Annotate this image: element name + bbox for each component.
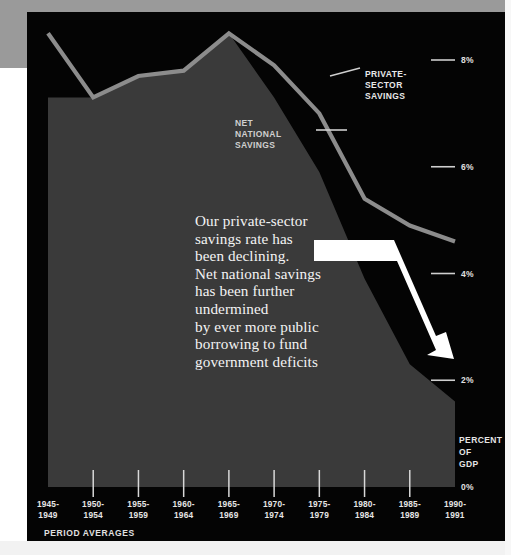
x-tick-label: 1955- 1959: [115, 499, 161, 521]
callout-text: Our private-sector savings rate has been…: [195, 212, 375, 370]
y-axis-ticks: [431, 60, 455, 380]
paper-edge-top: [0, 0, 511, 12]
x-tick-label: 1975- 1979: [296, 499, 342, 521]
x-tick-label: 1970- 1974: [251, 499, 297, 521]
paper-edge-bottom: [0, 541, 511, 555]
paper-edge-right: [505, 0, 511, 555]
x-tick-label: 1965- 1969: [206, 499, 252, 521]
x-tick-label: 1980- 1984: [342, 499, 388, 521]
x-axis-title: PERIOD AVERAGES: [44, 528, 135, 539]
legend-label-net-national: NET NATIONAL SAVINGS: [235, 118, 313, 151]
paper-edge-left: [0, 0, 27, 68]
y-tick-label: 4%: [461, 269, 474, 279]
chart-figure: PRIVATE- SECTOR SAVINGS NET NATIONAL SAV…: [0, 0, 511, 555]
y-tick-label: 0%: [461, 482, 474, 492]
x-tick-label: 1960- 1964: [161, 499, 207, 521]
x-tick-label: 1990- 1991: [432, 499, 478, 521]
x-tick-label: 1950- 1954: [70, 499, 116, 521]
chart-panel: PRIVATE- SECTOR SAVINGS NET NATIONAL SAV…: [27, 12, 505, 541]
y-tick-label: 6%: [461, 162, 474, 172]
x-tick-label: 1945- 1949: [27, 499, 71, 521]
paper-margin-left: [0, 68, 27, 555]
y-tick-label: 2%: [461, 375, 474, 385]
y-tick-label: 8%: [461, 55, 474, 65]
leader-line-private-sector: [330, 68, 360, 76]
x-tick-label: 1985- 1989: [387, 499, 433, 521]
legend-label-private-sector: PRIVATE- SECTOR SAVINGS: [365, 69, 407, 102]
y-axis-title: PERCENT OF GDP: [459, 434, 502, 470]
